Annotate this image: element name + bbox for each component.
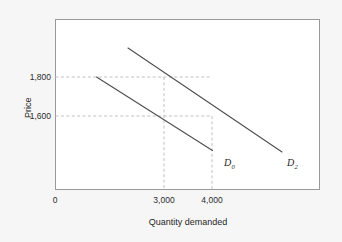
y-axis-title: Price (23, 97, 33, 118)
y-tick-label-1800: 1,800 (30, 72, 52, 82)
x-tick-label-3000: 3,000 (153, 195, 175, 205)
plot-frame (56, 20, 320, 190)
x-axis-title: Quantity demanded (149, 217, 228, 227)
x-tick-label-4000: 4,000 (201, 195, 223, 205)
demand-shift-chart: 1,800 1,600 Price 0 3,000 4,000 Quantity… (0, 0, 342, 242)
demand-curve-figure: 1,800 1,600 Price 0 3,000 4,000 Quantity… (0, 0, 342, 242)
origin-label: 0 (53, 195, 58, 205)
